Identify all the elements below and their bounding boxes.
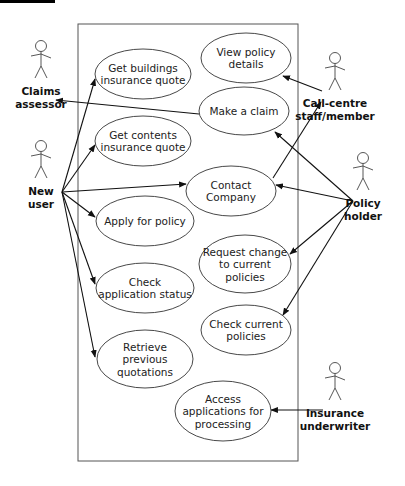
actor-claims[interactable]: Claimsassessor: [15, 41, 67, 111]
actor-callcentre[interactable]: Call-centrestaff/member: [295, 53, 375, 123]
association-policyholder-to-checkpolicies: [283, 201, 353, 315]
use-case-label: previous: [123, 353, 168, 365]
stick-figure-icon: [325, 53, 345, 91]
actor-label: user: [28, 198, 55, 210]
actor-newuser[interactable]: Newuser: [28, 141, 55, 211]
use-case-requestchange[interactable]: Request changeto currentpolicies: [199, 235, 291, 293]
use-case-retrieve[interactable]: Retrievepreviousquotations: [97, 330, 193, 388]
use-case-diagram: Get buildingsinsurance quoteView policyd…: [0, 0, 405, 486]
actor-label: Call-centre: [303, 97, 368, 109]
use-case-label: insurance quote: [101, 141, 186, 153]
use-case-label: Get contents: [109, 129, 177, 141]
use-case-label: Contact: [211, 179, 252, 191]
association-claim-to-claims: [56, 100, 199, 114]
association-newuser-to-contact: [62, 184, 186, 192]
actor-policyholder[interactable]: Policyholder: [344, 153, 383, 223]
use-case-label: policies: [225, 271, 265, 283]
use-case-claim[interactable]: Make a claim: [199, 87, 289, 135]
association-policyholder-to-contact: [276, 185, 353, 201]
use-case-label: Make a claim: [209, 105, 278, 117]
use-cases: Get buildingsinsurance quoteView policyd…: [95, 33, 291, 441]
use-case-label: Apply for policy: [104, 215, 186, 227]
stick-figure-icon: [325, 363, 345, 401]
use-case-label: View policy: [216, 46, 275, 58]
actor-label: Claims: [21, 85, 60, 97]
use-case-apply[interactable]: Apply for policy: [96, 196, 194, 246]
actor-underwriter[interactable]: Insuranceunderwriter: [300, 363, 371, 433]
use-case-checkpolicies[interactable]: Check currentpolicies: [201, 305, 291, 355]
use-case-label: Get buildings: [108, 62, 178, 74]
use-case-label: quotations: [117, 366, 173, 378]
actor-label: holder: [344, 210, 383, 222]
actor-label: staff/member: [295, 110, 375, 122]
use-case-label: applications for: [182, 405, 264, 417]
use-case-checkstatus[interactable]: Checkapplication status: [96, 263, 194, 313]
use-case-label: Request change: [203, 246, 288, 258]
stick-figure-icon: [31, 41, 51, 79]
use-case-access[interactable]: Accessapplications forprocessing: [175, 381, 271, 441]
actor-label: assessor: [15, 98, 67, 110]
use-case-label: Company: [206, 191, 256, 203]
use-case-label: insurance quote: [101, 74, 186, 86]
use-case-viewpolicy[interactable]: View policydetails: [201, 33, 291, 83]
use-case-label: Access: [205, 393, 241, 405]
association-callcentre-to-viewpolicy: [283, 76, 322, 91]
use-case-label: processing: [195, 418, 252, 430]
stick-figure-icon: [31, 141, 51, 179]
use-case-label: Retrieve: [123, 341, 167, 353]
use-case-contents[interactable]: Get contentsinsurance quote: [95, 116, 191, 166]
use-case-contact[interactable]: ContactCompany: [186, 166, 276, 216]
use-case-label: Check current: [209, 318, 283, 330]
stick-figure-icon: [353, 153, 373, 191]
association-policyholder-to-claim: [275, 132, 353, 201]
header-bar: [0, 0, 55, 3]
association-policyholder-to-requestchange: [290, 201, 353, 254]
actor-label: Insurance: [306, 407, 364, 419]
use-case-label: application status: [98, 288, 192, 300]
use-case-label: policies: [226, 330, 266, 342]
actor-label: New: [28, 185, 54, 197]
actor-label: Policy: [345, 197, 380, 209]
use-case-buildings[interactable]: Get buildingsinsurance quote: [95, 49, 191, 99]
use-case-label: details: [229, 58, 264, 70]
use-case-label: to current: [219, 258, 271, 270]
use-case-label: Check: [129, 276, 162, 288]
actor-label: underwriter: [300, 420, 371, 432]
